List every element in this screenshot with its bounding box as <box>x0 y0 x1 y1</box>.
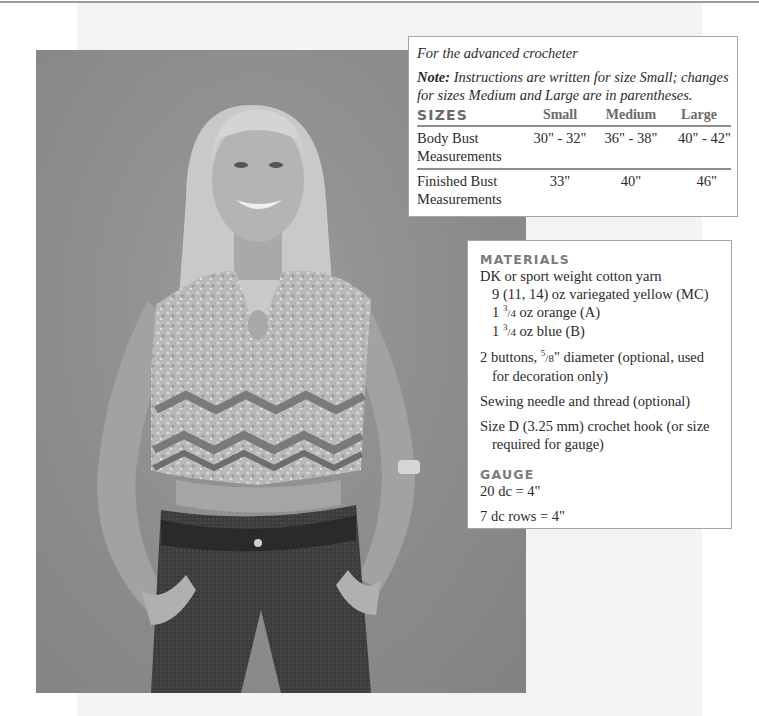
cell-medium: 40" <box>595 169 667 211</box>
buttons-item: 2 buttons, 5/8" diameter (optional, used… <box>480 348 731 385</box>
yarn-a-denominator: /4 <box>507 307 516 319</box>
gauge-heading: GAUGE <box>480 467 731 482</box>
cell-large: 46" <box>667 169 731 211</box>
note-label: Note: <box>417 69 450 85</box>
sizes-heading: SIZES <box>417 106 525 126</box>
yarn-mc: 9 (11, 14) oz variegated yellow (MC) <box>480 285 731 303</box>
sizes-table-header: SIZES Small Medium Large <box>417 106 731 126</box>
buttons-denominator: /8 <box>545 352 554 364</box>
yarn-b-whole: 1 <box>492 323 503 339</box>
cell-small: 33" <box>525 169 595 211</box>
yarn-b-text: oz blue (B) <box>516 323 585 339</box>
skill-level-text: For the advanced crocheter <box>417 44 729 62</box>
column-header-small: Small <box>525 106 595 126</box>
gauge-rows: 7 dc rows = 4" <box>480 507 731 525</box>
note-text: Instructions are written for size Small;… <box>417 69 729 103</box>
yarn-b: 1 3/4 oz blue (B) <box>480 322 731 341</box>
sizes-info-box: For the advanced crocheter Note: Instruc… <box>408 36 738 217</box>
cell-large: 40" - 42" <box>667 126 731 169</box>
table-row: Body Bust Measurements 30" - 32" 36" - 3… <box>417 126 731 169</box>
yarn-type: DK or sport weight cotton yarn <box>480 267 731 285</box>
sizes-table: SIZES Small Medium Large Body Bust Measu… <box>417 106 731 211</box>
yarn-b-denominator: /4 <box>507 326 516 338</box>
column-header-large: Large <box>667 106 731 126</box>
cell-medium: 36" - 38" <box>595 126 667 169</box>
yarn-a: 1 3/4 oz orange (A) <box>480 303 731 322</box>
yarn-a-whole: 1 <box>492 304 503 320</box>
row-label: Finished Bust Measurements <box>417 169 525 211</box>
sewing-item: Sewing needle and thread (optional) <box>480 392 731 410</box>
yarn-a-text: oz orange (A) <box>516 304 600 320</box>
gauge-stitches: 20 dc = 4" <box>480 482 731 500</box>
sizing-note: Note: Instructions are written for size … <box>417 68 729 104</box>
buttons-pre: 2 buttons, <box>480 349 541 365</box>
table-row: Finished Bust Measurements 33" 40" 46" <box>417 169 731 211</box>
row-label: Body Bust Measurements <box>417 126 525 169</box>
materials-box: MATERIALS DK or sport weight cotton yarn… <box>467 240 732 529</box>
cell-small: 30" - 32" <box>525 126 595 169</box>
column-header-medium: Medium <box>595 106 667 126</box>
materials-heading: MATERIALS <box>480 252 731 267</box>
hook-item: Size D (3.25 mm) crochet hook (or size r… <box>480 417 731 453</box>
